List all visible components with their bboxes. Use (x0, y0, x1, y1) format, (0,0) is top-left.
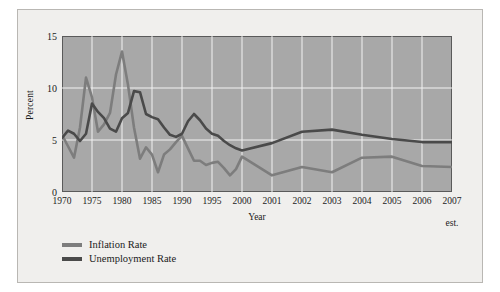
series-line-unemployment-rate (62, 91, 452, 150)
y-axis-title: Percent (25, 55, 35, 155)
legend-item-label: Inflation Rate (89, 240, 147, 251)
x-tick-label-text: 2004 (353, 196, 372, 206)
x-tick-label: 1980 (113, 196, 132, 206)
plot-area: 151050 197019751980198519901995200020012… (62, 36, 452, 192)
legend-swatch-icon (62, 243, 82, 247)
x-tick-label: 2002 (293, 196, 312, 206)
x-tick-label: 1985 (143, 196, 162, 206)
chart-canvas (62, 36, 452, 192)
x-tick-label: 2006 (413, 196, 432, 206)
legend-swatch-icon (62, 257, 82, 261)
x-tick-label-text: 2007 (443, 196, 462, 206)
legend-item: Inflation Rate (62, 238, 362, 252)
chart-figure: 151050 197019751980198519901995200020012… (0, 0, 500, 292)
x-tick-label: 2004 (353, 196, 372, 206)
x-tick-label-text: 1995 (203, 196, 222, 206)
series-lines (62, 52, 452, 176)
y-tick-label: 10 (47, 83, 57, 94)
x-tick-label: 2003 (323, 196, 342, 206)
x-tick-label-text: 2000 (233, 196, 252, 206)
x-tick-label: 1970 (53, 196, 72, 206)
x-tick-label-text: 2006 (413, 196, 432, 206)
x-tick-label-text: 1975 (83, 196, 102, 206)
x-tick-label-text: 1980 (113, 196, 132, 206)
x-axis-title: Year (62, 212, 452, 222)
legend-item-label: Unemployment Rate (89, 254, 176, 265)
x-tick-label: 2001 (263, 196, 282, 206)
x-tick-label-text: 2005 (383, 196, 402, 206)
series-line-inflation-rate (62, 52, 452, 176)
x-tick-label-text: 2002 (293, 196, 312, 206)
legend-item: Unemployment Rate (62, 252, 362, 266)
chart-legend: Inflation RateUnemployment Rate (62, 238, 362, 266)
x-tick-label: 2000 (233, 196, 252, 206)
x-tick-label-text: 1970 (53, 196, 72, 206)
x-tick-label-text: 1990 (173, 196, 192, 206)
y-tick-label: 5 (52, 135, 57, 146)
x-tick-label-text: 1985 (143, 196, 162, 206)
x-tick-label-text: 2001 (263, 196, 282, 206)
x-tick-label: 1975 (83, 196, 102, 206)
y-tick-label: 15 (47, 31, 57, 42)
x-tick-label-text: 2003 (323, 196, 342, 206)
x-tick-label: 1990 (173, 196, 192, 206)
x-tick-label: 2005 (383, 196, 402, 206)
x-tick-label: 1995 (203, 196, 222, 206)
